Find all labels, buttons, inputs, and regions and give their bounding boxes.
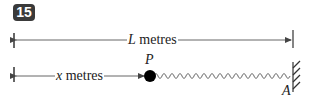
point-P-label: P — [144, 53, 155, 67]
length-x-label: x metres — [55, 69, 104, 83]
unit-metres: metres — [62, 68, 103, 83]
unit-metres: metres — [136, 32, 177, 47]
length-L-label: L metres — [127, 33, 178, 47]
particle-P — [144, 70, 156, 82]
spring — [154, 74, 290, 79]
diagram-canvas — [0, 0, 313, 100]
point-A-label: A — [281, 84, 292, 98]
variable-L: L — [128, 32, 136, 47]
fixed-wall — [293, 61, 300, 92]
